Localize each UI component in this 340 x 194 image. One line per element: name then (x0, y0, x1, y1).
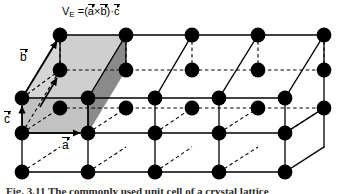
lattice-node (251, 28, 266, 43)
axis-label-b: b (20, 50, 27, 63)
lattice-node (278, 165, 293, 180)
lattice-node (119, 63, 134, 78)
lattice-node (185, 28, 200, 43)
formula-vector-a: a (88, 5, 94, 17)
lattice-node (212, 91, 227, 106)
lattice-node (251, 101, 266, 116)
formula-vector-b: b (100, 5, 106, 17)
lattice-node (15, 91, 30, 106)
lattice-node (278, 91, 293, 106)
lattice-node (53, 101, 68, 116)
lattice-node (317, 28, 332, 43)
lattice-node (148, 126, 163, 141)
axis-label-a: a (62, 138, 69, 151)
lattice-node (185, 63, 200, 78)
lattice-node (15, 165, 30, 180)
figure-caption: Fig. 3.11 The commonly used unit cell of… (6, 185, 336, 194)
axis-label-b-text: b (20, 50, 27, 63)
axis-label-c: c (4, 112, 10, 125)
lattice-node (53, 63, 68, 78)
lattice-node (251, 63, 266, 78)
lattice-node (53, 28, 68, 43)
lattice-node (317, 63, 332, 78)
lattice-node (212, 126, 227, 141)
lattice-node (119, 101, 134, 116)
lattice-node (212, 165, 227, 180)
formula-vector-c: c (114, 5, 120, 17)
lattice-diagram-svg (0, 0, 340, 194)
lattice-node (148, 165, 163, 180)
lattice-node (81, 91, 96, 106)
lattice-node (148, 91, 163, 106)
formula-subscript: E (69, 10, 74, 19)
lattice-node (119, 28, 134, 43)
crystal-lattice-figure: VE =(a×b)·c b c a Fig. 3.11 The commonly… (0, 0, 340, 194)
lattice-node (317, 101, 332, 116)
lattice-node (81, 126, 96, 141)
lattice-node (278, 126, 293, 141)
lattice-node (81, 165, 96, 180)
axis-label-a-text: a (62, 138, 69, 151)
volume-formula: VE =(a×b)·c (62, 5, 119, 19)
axis-label-c-text: c (4, 112, 10, 125)
lattice-node (185, 101, 200, 116)
